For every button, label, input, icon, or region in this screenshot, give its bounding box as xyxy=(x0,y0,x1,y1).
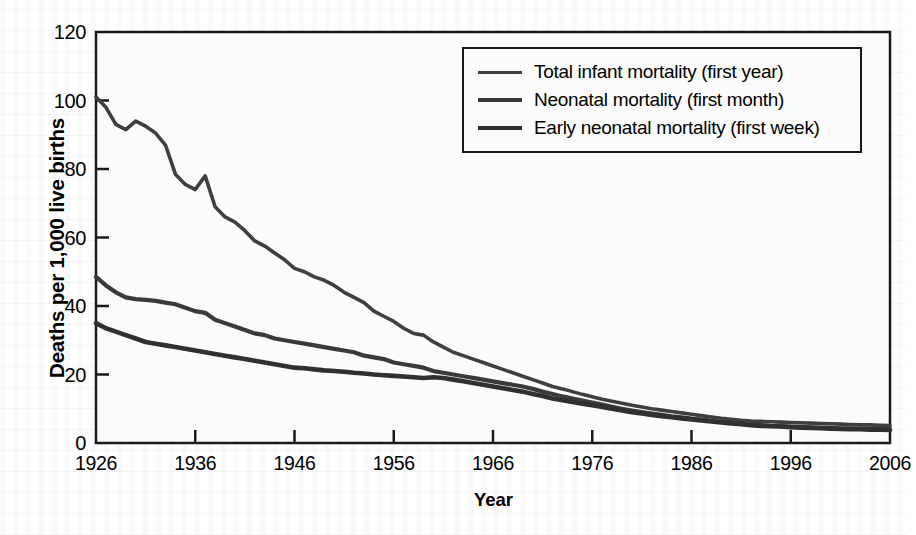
y-tick-label: 80 xyxy=(26,158,86,181)
legend-item: Total infant mortality (first year) xyxy=(478,58,850,86)
legend-label-neonatal: Neonatal mortality (first month) xyxy=(534,89,784,111)
y-tick-label: 40 xyxy=(26,295,86,318)
x-axis-title: Year xyxy=(96,489,891,511)
chart-legend: Total infant mortality (first year) Neon… xyxy=(462,47,862,153)
x-tick-label: 1976 xyxy=(552,452,632,475)
x-tick-label: 1946 xyxy=(255,452,335,475)
legend-label-total: Total infant mortality (first year) xyxy=(534,61,783,83)
legend-line-swatch-neonatal xyxy=(478,98,522,102)
x-tick-label: 1926 xyxy=(56,452,136,475)
y-tick-label: 60 xyxy=(26,226,86,249)
x-tick-label: 1936 xyxy=(155,452,235,475)
x-tick-label: 1996 xyxy=(751,452,831,475)
y-tick-label: 20 xyxy=(26,363,86,386)
legend-line-swatch-total xyxy=(478,71,522,74)
x-tick-label: 2006 xyxy=(850,452,916,475)
x-tick-label: 1966 xyxy=(453,452,533,475)
x-tick-label: 1956 xyxy=(354,452,434,475)
y-tick-label: 100 xyxy=(26,89,86,112)
legend-line-swatch-early-neonatal xyxy=(478,126,522,130)
legend-label-early-neonatal: Early neonatal mortality (first week) xyxy=(534,117,820,139)
legend-item: Neonatal mortality (first month) xyxy=(478,86,850,114)
x-tick-label: 1986 xyxy=(652,452,732,475)
y-tick-label: 120 xyxy=(26,21,86,44)
legend-item: Early neonatal mortality (first week) xyxy=(478,114,850,142)
